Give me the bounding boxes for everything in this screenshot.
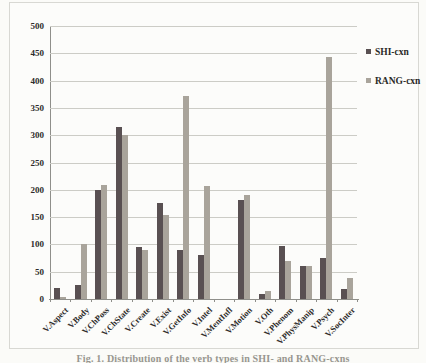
y-axis-tick-label: 150 <box>18 212 44 222</box>
plot-area: 050100150200250300350400450500V.AspectV.… <box>50 26 357 299</box>
chart-legend: SHI-cxn RANG-cxn <box>366 47 422 105</box>
y-axis-tick-label: 400 <box>18 76 44 86</box>
scanned-page: 050100150200250300350400450500V.AspectV.… <box>0 0 426 363</box>
bar-RANG-cxn-V.Exist <box>163 215 169 299</box>
y-axis-tick-label: 50 <box>18 267 44 277</box>
x-axis-tick <box>70 299 71 302</box>
bar-RANG-cxn-V.SocInter <box>347 278 353 299</box>
bar-RANG-cxn-V.Create <box>142 250 148 299</box>
x-axis-tick <box>255 299 256 302</box>
gridline <box>50 108 357 109</box>
gridline <box>50 135 357 136</box>
bar-RANG-cxn-V.Oth <box>265 291 271 299</box>
figure-caption: Fig. 1. Distribution of the verb types i… <box>0 353 426 363</box>
bar-RANG-cxn-V.GetInfo <box>183 96 189 299</box>
y-axis-tick-label: 0 <box>18 294 44 304</box>
y-axis-tick-label: 250 <box>18 158 44 168</box>
bar-RANG-cxn-V.Phenom <box>285 261 291 299</box>
bar-RANG-cxn-V.ChPoss <box>101 185 107 299</box>
y-axis-tick-label: 350 <box>18 103 44 113</box>
y-axis-tick-label: 200 <box>18 185 44 195</box>
x-axis-tick <box>337 299 338 302</box>
legend-label-series2: RANG-cxn <box>375 76 420 86</box>
x-axis-line <box>49 299 359 300</box>
x-axis-tick <box>173 299 174 302</box>
gridline <box>50 81 357 82</box>
x-axis-tick <box>91 299 92 302</box>
gridline <box>50 163 357 164</box>
y-axis-tick-label: 300 <box>18 130 44 140</box>
x-axis-category-label: V.Aspect <box>41 305 70 334</box>
series2-swatch-icon <box>366 78 371 83</box>
bar-RANG-cxn-V.Psych <box>326 57 332 299</box>
x-axis-tick <box>316 299 317 302</box>
x-axis-tick <box>357 299 358 302</box>
x-axis-tick <box>50 299 51 302</box>
y-axis-tick-label: 450 <box>18 48 44 58</box>
x-axis-tick <box>275 299 276 302</box>
bar-RANG-cxn-V.Motion <box>244 195 250 299</box>
x-axis-tick <box>132 299 133 302</box>
bar-RANG-cxn-V.Body <box>81 244 87 299</box>
legend-item-series2: RANG-cxn <box>366 76 422 87</box>
x-axis-tick <box>214 299 215 302</box>
chart-frame: 050100150200250300350400450500V.AspectV.… <box>9 2 419 349</box>
x-axis-tick <box>111 299 112 302</box>
series1-swatch-icon <box>366 49 371 54</box>
bar-RANG-cxn-V.Intel <box>204 186 210 299</box>
legend-label-series1: SHI-cxn <box>375 47 409 57</box>
gridline <box>50 26 357 27</box>
x-axis-tick <box>234 299 235 302</box>
x-axis-tick <box>152 299 153 302</box>
bar-RANG-cxn-V.PhysManip <box>306 266 312 299</box>
bar-RANG-cxn-V.ChState <box>122 135 128 299</box>
bar-RANG-cxn-V.Aspect <box>60 297 66 299</box>
x-axis-tick <box>193 299 194 302</box>
y-axis-tick-label: 500 <box>18 21 44 31</box>
x-axis-tick <box>296 299 297 302</box>
legend-item-series1: SHI-cxn <box>366 47 422 58</box>
gridline <box>50 53 357 54</box>
y-axis-tick-label: 100 <box>18 239 44 249</box>
